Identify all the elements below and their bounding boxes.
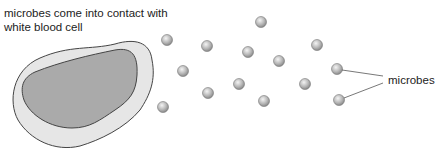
- microbe: [202, 41, 213, 52]
- microbe: [178, 66, 189, 77]
- microbe: [256, 17, 267, 28]
- leader-line: [344, 83, 383, 98]
- microbes-label: microbes: [388, 74, 435, 86]
- microbe: [234, 79, 245, 90]
- microbe: [259, 96, 270, 107]
- microbe: [162, 35, 173, 46]
- microbe: [158, 102, 169, 113]
- microbe: [274, 56, 285, 67]
- microbes: [158, 17, 345, 113]
- leader-line: [342, 70, 383, 76]
- microbe: [300, 79, 311, 90]
- microbe: [243, 47, 254, 58]
- microbe: [312, 40, 323, 51]
- microbe: [332, 64, 343, 75]
- microbe: [334, 95, 345, 106]
- label-leader-lines: [342, 70, 383, 98]
- white-blood-cell: [13, 41, 153, 147]
- microbe: [203, 88, 214, 99]
- diagram-canvas: [0, 0, 437, 152]
